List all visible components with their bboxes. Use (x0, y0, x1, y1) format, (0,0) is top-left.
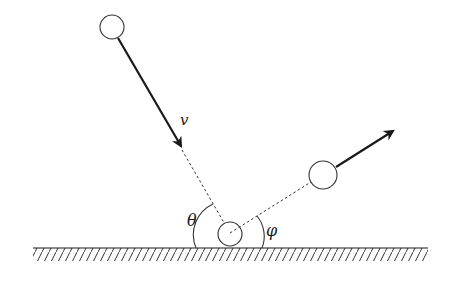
collision-diagram: v θ φ (0, 0, 455, 284)
incoming-ball (100, 15, 124, 39)
ground-surface (33, 248, 428, 261)
velocity-label: v (180, 111, 189, 129)
incoming-velocity-arrow (118, 38, 181, 146)
theta-label: θ (187, 211, 197, 230)
outgoing-ball (309, 161, 337, 189)
impact-ball (218, 222, 242, 246)
outgoing-velocity-arrow (336, 131, 393, 167)
phi-label: φ (266, 221, 278, 240)
phi-angle-arc (257, 216, 264, 248)
